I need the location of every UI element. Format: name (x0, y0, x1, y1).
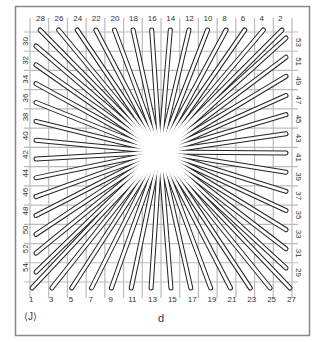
svg-text:24: 24 (73, 14, 82, 23)
svg-text:23: 23 (247, 295, 256, 304)
svg-text:49: 49 (294, 76, 303, 85)
svg-text:18: 18 (129, 14, 138, 23)
svg-text:34: 34 (21, 74, 30, 83)
svg-text:13: 13 (148, 295, 157, 304)
svg-text:7: 7 (89, 295, 94, 304)
svg-text:32: 32 (21, 55, 30, 64)
svg-text:9: 9 (108, 295, 113, 304)
svg-text:51: 51 (294, 57, 303, 66)
string-art-diagram: 2826242220181614121086421357911131517192… (0, 0, 317, 342)
svg-text:33: 33 (294, 230, 303, 239)
svg-text:3: 3 (49, 295, 54, 304)
svg-text:21: 21 (227, 295, 236, 304)
svg-text:14: 14 (166, 14, 175, 23)
svg-text:26: 26 (55, 14, 64, 23)
svg-text:4: 4 (259, 14, 264, 23)
svg-text:52: 52 (21, 244, 30, 253)
svg-text:45: 45 (294, 115, 303, 124)
svg-text:10: 10 (204, 14, 213, 23)
svg-text:36: 36 (21, 93, 30, 102)
svg-text:53: 53 (294, 38, 303, 47)
svg-text:8: 8 (222, 14, 227, 23)
svg-text:5: 5 (69, 295, 74, 304)
svg-text:43: 43 (294, 134, 303, 143)
svg-text:37: 37 (294, 191, 303, 200)
svg-text:12: 12 (185, 14, 194, 23)
svg-text:19: 19 (208, 295, 217, 304)
svg-text:41: 41 (294, 153, 303, 162)
svg-text:47: 47 (294, 96, 303, 105)
svg-text:35: 35 (294, 211, 303, 220)
svg-text:40: 40 (21, 131, 30, 140)
svg-text:28: 28 (36, 14, 45, 23)
svg-text:46: 46 (21, 187, 30, 196)
svg-text:27: 27 (287, 295, 296, 304)
svg-text:22: 22 (92, 14, 101, 23)
svg-text:42: 42 (21, 150, 30, 159)
svg-text:11: 11 (128, 295, 137, 304)
svg-text:25: 25 (267, 295, 276, 304)
svg-text:20: 20 (110, 14, 119, 23)
svg-text:2: 2 (278, 14, 283, 23)
svg-text:31: 31 (294, 249, 303, 258)
svg-text:50: 50 (21, 225, 30, 234)
svg-text:38: 38 (21, 112, 30, 121)
corner-mark: ⟨J⟩ (24, 311, 37, 322)
svg-text:39: 39 (294, 172, 303, 181)
svg-text:54: 54 (21, 263, 30, 272)
svg-text:29: 29 (294, 268, 303, 277)
svg-text:17: 17 (188, 295, 197, 304)
svg-text:30: 30 (21, 37, 30, 46)
svg-text:1: 1 (29, 295, 34, 304)
svg-text:6: 6 (241, 14, 246, 23)
figure-caption: d (158, 312, 164, 324)
svg-text:15: 15 (168, 295, 177, 304)
svg-text:48: 48 (21, 206, 30, 215)
svg-text:44: 44 (21, 168, 30, 177)
svg-text:16: 16 (148, 14, 157, 23)
